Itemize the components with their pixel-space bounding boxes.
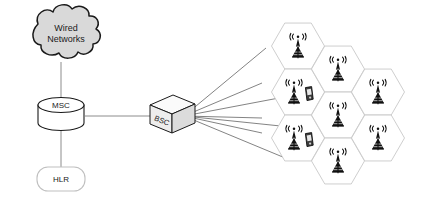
cloud-label-line1: Wired <box>54 23 78 33</box>
hlr-node[interactable]: HLR <box>37 167 85 191</box>
msc-label: MSC <box>52 101 70 110</box>
msc-cylinder[interactable]: MSC <box>38 98 84 131</box>
network-diagram: Wired Networks MSC HLR BSC <box>0 0 430 206</box>
bsc-box[interactable]: BSC <box>150 95 195 133</box>
hlr-label: HLR <box>53 175 69 184</box>
nodes-layer: Wired Networks MSC HLR BSC <box>0 0 430 206</box>
cloud-label-line2: Networks <box>47 34 85 44</box>
wired-networks-cloud[interactable]: Wired Networks <box>33 5 100 58</box>
